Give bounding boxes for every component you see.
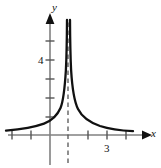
- y-axis-arrowhead: [46, 13, 55, 24]
- plot-canvas: [0, 0, 161, 168]
- curve-left-branch: [6, 20, 67, 131]
- y-tick-label-4: 4: [38, 55, 44, 66]
- x-tick-label-3: 3: [104, 143, 110, 154]
- curve-right-branch: [70, 20, 133, 131]
- function-graph-figure: y x 4 3: [0, 0, 161, 168]
- x-axis-label: x: [151, 128, 156, 139]
- y-axis-label: y: [52, 2, 57, 13]
